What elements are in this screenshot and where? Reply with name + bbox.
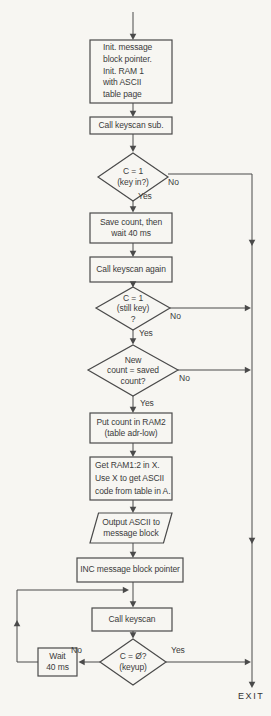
new-count-decision-label: New count = saved count?: [88, 345, 178, 396]
arrowhead-loop-join: [123, 587, 129, 594]
still-key-decision-label: C = 1 (still key) ?: [96, 287, 170, 330]
still-key-no-label: No: [170, 311, 181, 321]
arrowhead-stillkey-no-join: [245, 305, 251, 312]
key-in-no-label: No: [168, 177, 179, 187]
inc-pointer-label: INC message block pointer: [77, 558, 183, 582]
key-in-decision-label: C = 1 (key in?): [98, 153, 168, 201]
arrowhead-rail-mid-upper: [249, 240, 256, 246]
new-count-no-label: No: [179, 373, 190, 383]
exit-label: EXIT: [238, 691, 264, 701]
arrowhead-into-keyup: [130, 632, 137, 638]
arrowhead-loop-up: [14, 620, 21, 626]
keyup-decision-label: C = Ø? (keyup): [100, 639, 166, 685]
new-count-yes-label: Yes: [140, 398, 154, 408]
arrowhead-into-newcount: [130, 338, 137, 344]
key-in-yes-label: Yes: [138, 191, 152, 201]
get-ram-label: Get RAM1:2 in X. Use X to get ASCII code…: [90, 457, 177, 500]
still-key-yes-label: Yes: [139, 328, 153, 338]
output-ascii-label: Output ASCII to message block: [90, 513, 172, 543]
call-keyscan-label: Call keyscan: [92, 608, 172, 631]
arrowhead-into-wait: [79, 659, 85, 666]
put-count-label: Put count in RAM2 (table adr-low): [90, 413, 172, 443]
save-count-label: Save count, then wait 40 ms: [90, 213, 172, 243]
connector-keyin-no-rail: [168, 174, 252, 684]
arrowhead-keyup-yes-join: [245, 659, 251, 666]
arrowhead-into-callkeyscan: [130, 601, 137, 607]
flowchart-canvas: Init. message block pointer. Init. RAM 1…: [0, 0, 271, 716]
keyup-no-label: No: [71, 645, 82, 655]
arrowhead-into-exit: [249, 682, 256, 688]
arrowhead-into-keyin: [130, 146, 137, 152]
arrowhead-rail-mid-lower: [249, 538, 256, 544]
arrowhead-newcount-no-join: [245, 367, 251, 374]
keyup-yes-label: Yes: [171, 645, 185, 655]
call-keyscan-again-label: Call keyscan again: [90, 257, 172, 282]
call-keyscan-sub-label: Call keyscan sub.: [90, 117, 172, 134]
init-label: Init. message block pointer. Init. RAM 1…: [90, 40, 185, 103]
arrowhead-into-savecount: [130, 206, 137, 212]
